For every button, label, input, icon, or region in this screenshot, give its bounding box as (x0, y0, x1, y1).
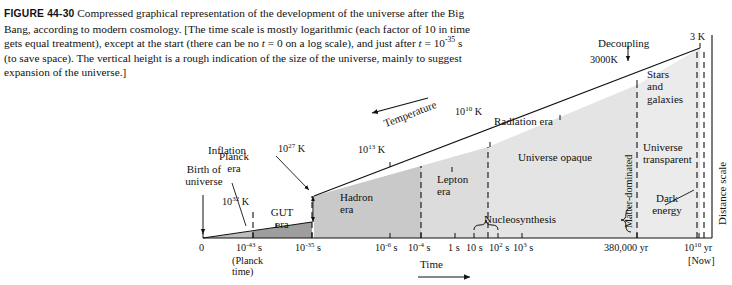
time-axis-title: Time (420, 258, 443, 270)
now-note: [Now] (688, 255, 715, 266)
temp-tick-10e27: 1027 K (278, 143, 305, 154)
x-tick-10e2s: 102 s (489, 242, 509, 253)
stars-and-galaxies-line1: Stars (647, 68, 683, 80)
x-tick-1s: 1 s (448, 242, 460, 253)
planck-time-line1: (Planck (232, 255, 263, 266)
inflation-label: Inflation (208, 144, 246, 156)
x-tick-10e10yr: 1010 yr (684, 242, 712, 253)
birth-of-universe-line2: universe (168, 175, 240, 187)
lepton-era-line2: era (437, 185, 468, 197)
temp-tick-10e13: 1013 K (358, 144, 385, 155)
x-tick-10s: 10 s (466, 242, 483, 253)
matter-dominated-label: Matter-dominated (623, 155, 635, 228)
time-axis-arrow (418, 272, 478, 282)
x-tick-380000yr: 380,000 yr (604, 242, 648, 253)
temp-tick-10e10: 1010 K (455, 106, 482, 117)
temp-tick-10e32: 1032 K (222, 196, 249, 207)
temp-tick-3000K: 3000K (590, 54, 618, 65)
nucleosynthesis-label: Nucleosynthesis (484, 213, 556, 225)
x-tick-10e-35s: 10-35 s (295, 242, 321, 253)
x-tick-10e-4s: 10-4 s (408, 242, 430, 253)
radiation-era-label: Radiation era (494, 115, 553, 127)
universe-transparent-line1: Universe (643, 141, 692, 153)
gut-era-label: GUT era (258, 206, 306, 231)
x-tick-10e3s: 103 s (513, 242, 533, 253)
lepton-era-label: Lepton era (437, 173, 468, 198)
hadron-era-label: Hadron era (340, 191, 373, 216)
gut-era-line2: era (258, 218, 306, 230)
decoupling-label: Decoupling (598, 37, 649, 49)
dark-energy-label: Dark energy (643, 192, 691, 217)
x-tick-10e-6s: 10-6 s (375, 242, 397, 253)
temp-tick-3K: 3 K (690, 31, 705, 42)
inflation-leader (276, 156, 309, 190)
universe-transparent-line2: transparent (643, 153, 692, 165)
hadron-era-line1: Hadron (340, 191, 373, 203)
dark-energy-line2: energy (643, 204, 691, 216)
x-tick-10e-43s: 10-43 s (236, 242, 262, 253)
universe-opaque-label: Universe opaque (518, 151, 592, 163)
stars-and-galaxies-line3: galaxies (647, 93, 683, 105)
lepton-era-line1: Lepton (437, 173, 468, 185)
distance-scale-title: Distance scale (716, 162, 728, 225)
universe-transparent-label: Universe transparent (643, 141, 692, 166)
planck-time-line2: time) (232, 266, 263, 277)
x-tick-0: 0 (199, 242, 204, 253)
gut-era-line1: GUT (258, 206, 306, 218)
planck-time-note: (Planck time) (232, 255, 263, 278)
stars-and-galaxies-line2: and (647, 80, 683, 92)
planck-era-line2: era (205, 162, 263, 174)
dark-energy-line1: Dark (643, 192, 691, 204)
stars-and-galaxies-label: Stars and galaxies (647, 68, 683, 105)
hadron-era-line2: era (340, 203, 373, 215)
